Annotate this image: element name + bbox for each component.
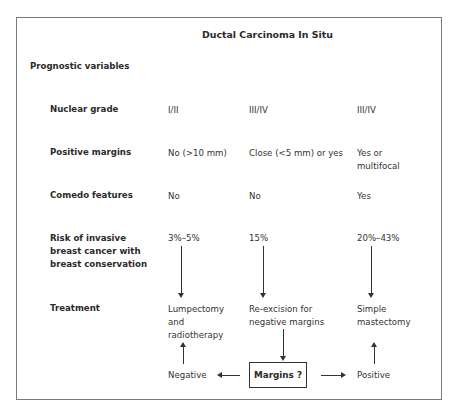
arrowhead-down-icon — [178, 293, 184, 298]
cell-nuclear-grade-2: III/IV — [249, 104, 268, 117]
arrow-positive-to-mastectomy — [374, 346, 375, 364]
margins-decision-box: Margins ? — [249, 362, 307, 388]
diagram-title: Ductal Carcinoma In Situ — [202, 28, 333, 41]
label-nuclear-grade: Nuclear grade — [50, 103, 118, 116]
arrowhead-right-icon — [341, 372, 346, 378]
arrowhead-left-icon — [217, 372, 222, 378]
arrow-negative-to-lumpectomy — [183, 346, 184, 364]
label-risk-line2: breast cancer with — [50, 245, 141, 258]
cell-nuclear-grade-3: III/IV — [357, 104, 376, 117]
arrowhead-down-icon — [260, 293, 266, 298]
arrow-risk3-to-treatment3 — [371, 246, 372, 293]
label-comedo-features: Comedo features — [50, 189, 133, 202]
cell-comedo-2: No — [249, 190, 261, 203]
arrowhead-down-icon — [280, 356, 286, 361]
arrow-reexcision-to-margins — [283, 329, 284, 357]
cell-treatment-2-line2: negative margins — [249, 316, 324, 329]
arrow-margins-to-positive — [321, 375, 341, 376]
label-positive-margins: Positive margins — [50, 146, 131, 159]
cell-treatment-3-line2: mastectomy — [357, 316, 411, 329]
cell-comedo-1: No — [168, 190, 180, 203]
diagram-frame — [16, 17, 442, 400]
arrow-risk1-to-treatment1 — [181, 246, 182, 293]
cell-risk-1: 3%–5% — [168, 232, 200, 245]
cell-treatment-1-line1: Lumpectomy — [168, 303, 224, 316]
cell-treatment-1-line2: and — [168, 316, 184, 329]
cell-positive-margins-3-line1: Yes or — [357, 147, 382, 160]
arrowhead-up-icon — [180, 342, 186, 347]
section-heading: Prognostic variables — [30, 60, 129, 73]
cell-positive-margins-2: Close (<5 mm) or yes — [249, 147, 343, 160]
cell-positive-margins-3-line2: multifocal — [357, 160, 400, 173]
cell-positive-margins-1: No (>10 mm) — [168, 147, 227, 160]
cell-treatment-3-line1: Simple — [357, 303, 386, 316]
cell-nuclear-grade-1: I/II — [168, 104, 179, 117]
cell-risk-3: 20%–43% — [357, 232, 400, 245]
label-treatment: Treatment — [50, 302, 100, 315]
outcome-positive: Positive — [357, 369, 390, 382]
cell-treatment-2-line1: Re-excision for — [249, 303, 312, 316]
arrowhead-down-icon — [368, 293, 374, 298]
label-risk-line1: Risk of invasive — [50, 232, 126, 245]
arrow-risk2-to-treatment2 — [263, 246, 264, 293]
arrow-margins-to-negative — [222, 375, 240, 376]
cell-comedo-3: Yes — [357, 190, 371, 203]
cell-risk-2: 15% — [249, 232, 268, 245]
outcome-negative: Negative — [168, 369, 207, 382]
label-risk-line3: breast conservation — [50, 258, 147, 271]
cell-treatment-1-line3: radiotherapy — [168, 329, 223, 342]
arrowhead-up-icon — [371, 342, 377, 347]
